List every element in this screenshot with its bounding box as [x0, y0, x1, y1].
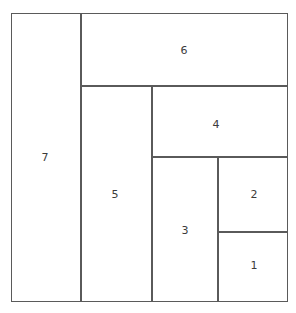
rectangle-label-1: 1: [251, 260, 258, 271]
rectangle-label-2: 2: [251, 189, 258, 200]
rectangle-4: [152, 86, 288, 157]
rectangle-label-4: 4: [213, 119, 220, 130]
rectangle-label-5: 5: [112, 189, 119, 200]
rectangle-label-6: 6: [181, 45, 188, 56]
diagram-canvas: 1234567: [0, 0, 296, 313]
rectangle-label-7: 7: [42, 152, 49, 163]
rectangle-label-3: 3: [182, 225, 189, 236]
